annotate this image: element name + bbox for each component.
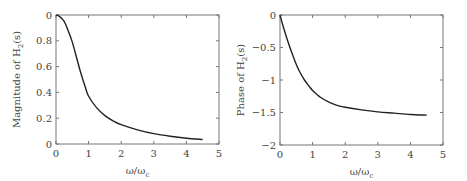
y-tick-label: 0.8 [36, 35, 52, 46]
y-tick-label: 0.2 [36, 113, 52, 124]
y-tick-label: 0 [270, 10, 276, 21]
magnitude-chart: 01234500.20.40.60.80ω/ωcMagnitude of H2(… [11, 10, 222, 180]
y-tick-label: 0.4 [36, 87, 52, 98]
phase-chart: 012345−2−1.5−1−0.50ω/ωcPhase of H2(s) [235, 10, 446, 181]
data-curve [56, 15, 203, 139]
x-axis-label: ω/ωc [350, 166, 374, 180]
data-curve [280, 15, 427, 115]
x-tick-label: 5 [440, 149, 446, 160]
x-tick-label: 3 [151, 148, 157, 159]
plot-frame [56, 15, 219, 144]
figure: 01234500.20.40.60.80ω/ωcMagnitude of H2(… [0, 0, 467, 181]
y-tick-label: −0.5 [252, 42, 276, 53]
y-tick-label: 0 [46, 139, 52, 150]
x-tick-label: 5 [216, 148, 222, 159]
x-tick-label: 0 [53, 148, 59, 159]
y-tick-label: 0.6 [36, 61, 52, 72]
y-tick-label: −1.5 [252, 107, 276, 118]
x-tick-label: 3 [375, 149, 381, 160]
x-tick-label: 4 [407, 149, 413, 160]
x-axis-label: ω/ωc [126, 165, 150, 179]
y-tick-label: −2 [261, 140, 276, 151]
x-tick-label: 2 [118, 148, 124, 159]
y-axis-label: Phase of H2(s) [235, 44, 249, 116]
y-axis-label: Magnitude of H2(s) [11, 31, 25, 128]
x-tick-label: 0 [277, 149, 283, 160]
x-tick-label: 2 [342, 149, 348, 160]
y-tick-label: 0 [46, 10, 52, 21]
x-tick-label: 4 [183, 148, 189, 159]
y-tick-label: −1 [261, 75, 276, 86]
x-tick-label: 1 [85, 148, 91, 159]
x-tick-label: 1 [309, 149, 315, 160]
